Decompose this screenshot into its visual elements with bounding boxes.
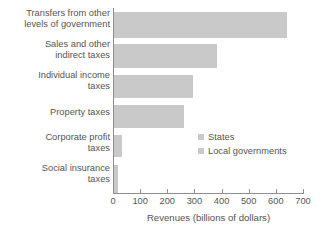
bar-transfers bbox=[114, 12, 287, 38]
x-tick-mark bbox=[194, 189, 195, 194]
bar-row bbox=[113, 105, 303, 128]
bar-individual-income bbox=[114, 75, 193, 98]
x-tick-label: 600 bbox=[268, 196, 284, 207]
legend-label: States bbox=[208, 132, 234, 142]
category-axis-labels: Transfers from other levels of governmen… bbox=[0, 0, 110, 194]
legend-item-states: States bbox=[198, 131, 287, 143]
x-tick-label: 200 bbox=[160, 196, 176, 207]
category-label: Individual income taxes bbox=[2, 70, 110, 91]
category-label: Social insurance taxes bbox=[2, 163, 110, 184]
category-label: Sales and other indirect taxes bbox=[2, 39, 110, 60]
legend-swatch-icon bbox=[198, 134, 204, 140]
x-tick-mark bbox=[167, 189, 168, 194]
bar-row bbox=[113, 75, 303, 98]
x-tick-mark bbox=[222, 189, 223, 194]
bar-row bbox=[113, 12, 303, 38]
plot-area bbox=[113, 8, 303, 193]
x-tick-label: 300 bbox=[187, 196, 203, 207]
bar-row bbox=[113, 165, 303, 193]
category-label: Property taxes bbox=[2, 107, 110, 118]
legend-item-local-governments: Local governments bbox=[198, 145, 287, 157]
bar-sales bbox=[114, 44, 217, 68]
x-tick-mark bbox=[249, 189, 250, 194]
bar-row bbox=[113, 44, 303, 68]
x-tick-label: 500 bbox=[241, 196, 257, 207]
bar-chart-figure: Transfers from other levels of governmen… bbox=[0, 0, 321, 237]
x-tick-label: 700 bbox=[295, 196, 311, 207]
legend: States Local governments bbox=[198, 131, 287, 159]
x-tick-label: 100 bbox=[132, 196, 148, 207]
category-label: Corporate profit taxes bbox=[2, 132, 110, 153]
bar-social-insurance bbox=[114, 165, 118, 193]
x-tick-mark bbox=[140, 189, 141, 194]
x-axis-title: Revenues (billions of dollars) bbox=[113, 212, 304, 223]
x-tick-mark bbox=[113, 189, 114, 194]
x-tick-mark bbox=[303, 189, 304, 194]
legend-label: Local governments bbox=[208, 146, 287, 156]
legend-swatch-icon bbox=[198, 148, 204, 154]
bar-property bbox=[114, 105, 184, 128]
x-tick-mark bbox=[276, 189, 277, 194]
x-tick-label: 400 bbox=[214, 196, 230, 207]
x-tick-label: 0 bbox=[110, 196, 115, 207]
category-label: Transfers from other levels of governmen… bbox=[2, 8, 110, 29]
bar-corporate-profit bbox=[114, 135, 122, 157]
